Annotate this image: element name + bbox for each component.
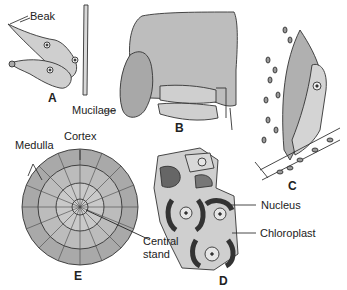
panel-c-drawing <box>255 27 340 180</box>
mucilage-label: Mucilage <box>72 105 116 116</box>
panel-b-label: B <box>175 122 184 134</box>
panel-e-label: E <box>74 270 82 282</box>
central-stand-label-line2: stand <box>143 249 170 260</box>
central-stand-label-line1: Central <box>143 236 178 247</box>
panel-b-drawing <box>120 12 237 130</box>
beak-label: Beak <box>30 11 55 22</box>
panel-e-drawing <box>22 149 150 265</box>
panel-a-label: A <box>48 92 57 104</box>
cortex-label: Cortex <box>64 131 96 142</box>
medulla-label: Medulla <box>15 140 54 151</box>
nucleus-label: Nucleus <box>261 200 301 211</box>
chloroplast-label: Chloroplast <box>260 228 316 239</box>
panel-d-label: D <box>219 275 228 287</box>
panel-c-label: C <box>288 180 297 192</box>
